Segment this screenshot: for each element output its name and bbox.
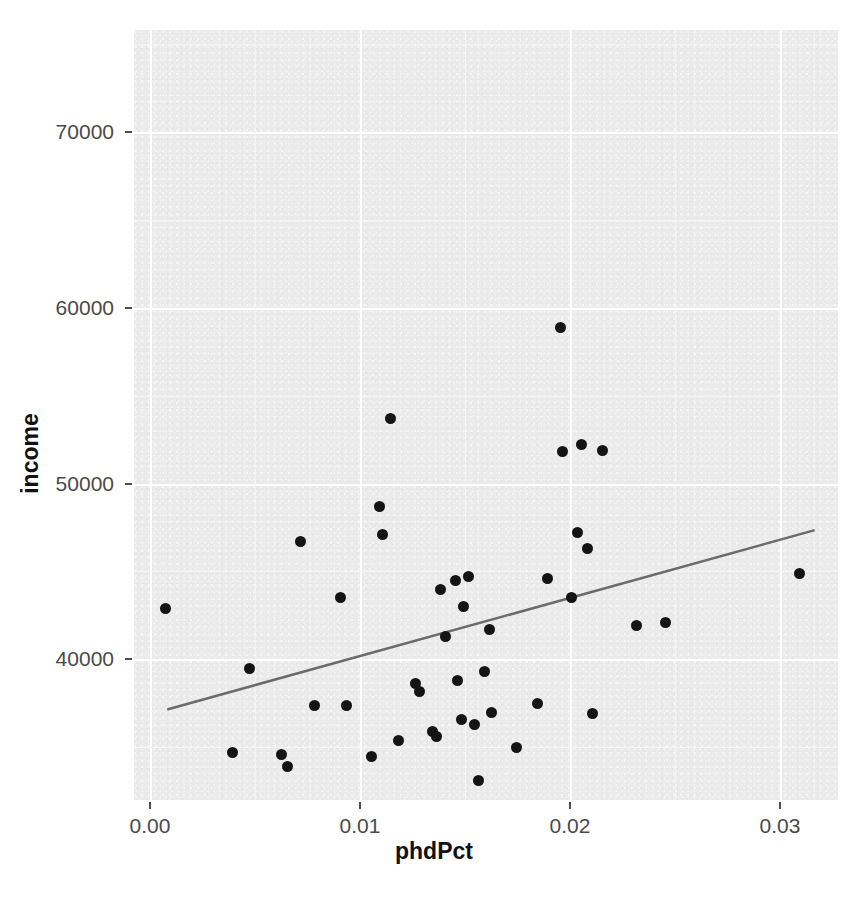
scatter-point bbox=[160, 603, 171, 614]
x-axis-title: phdPct bbox=[0, 838, 868, 865]
scatter-point bbox=[244, 663, 255, 674]
scatter-point bbox=[450, 575, 461, 586]
scatter-point bbox=[309, 700, 320, 711]
scatter-point bbox=[414, 686, 425, 697]
scatter-point bbox=[587, 708, 598, 719]
x-tick-label: 0.01 bbox=[340, 814, 381, 838]
y-axis-title: income bbox=[17, 413, 44, 494]
x-tick-label: 0.00 bbox=[130, 814, 171, 838]
scatter-point bbox=[276, 749, 287, 760]
scatter-point bbox=[532, 698, 543, 709]
scatter-point bbox=[341, 700, 352, 711]
scatter-point bbox=[435, 584, 446, 595]
scatter-point bbox=[484, 624, 495, 635]
scatter-point bbox=[463, 571, 474, 582]
y-tick-mark bbox=[125, 131, 132, 133]
x-tick-label: 0.03 bbox=[760, 814, 801, 838]
scatter-point bbox=[486, 707, 497, 718]
scatter-point bbox=[366, 751, 377, 762]
x-tick-mark bbox=[569, 802, 571, 809]
scatter-point bbox=[469, 719, 480, 730]
scatter-point bbox=[440, 631, 451, 642]
chart-page: 40000500006000070000 0.000.010.020.03 in… bbox=[0, 0, 868, 906]
scatter-point bbox=[555, 322, 566, 333]
y-tick-mark bbox=[125, 307, 132, 309]
y-tick-mark bbox=[125, 483, 132, 485]
scatter-point bbox=[660, 617, 671, 628]
scatter-point bbox=[377, 529, 388, 540]
scatter-point bbox=[456, 714, 467, 725]
y-axis-title-wrap: income bbox=[10, 0, 50, 906]
x-tick-mark bbox=[149, 802, 151, 809]
x-tick-mark bbox=[359, 802, 361, 809]
scatter-point bbox=[385, 413, 396, 424]
plot-panel bbox=[134, 30, 838, 800]
scatter-point bbox=[511, 742, 522, 753]
regression-line bbox=[134, 30, 838, 800]
y-tick-mark bbox=[125, 658, 132, 660]
x-tick-label: 0.02 bbox=[550, 814, 591, 838]
scatter-point bbox=[566, 592, 577, 603]
scatter-point bbox=[335, 592, 346, 603]
scatter-point bbox=[393, 735, 404, 746]
fit-line-segment bbox=[167, 530, 815, 709]
x-tick-mark bbox=[779, 802, 781, 809]
scatter-point bbox=[295, 536, 306, 547]
scatter-point bbox=[597, 445, 608, 456]
